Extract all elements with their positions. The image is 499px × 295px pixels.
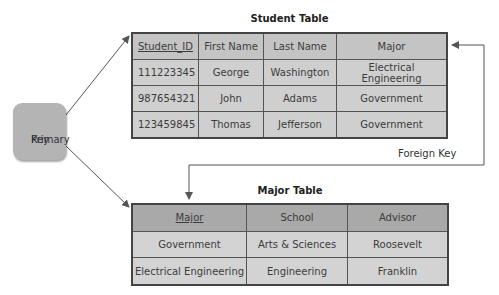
student-table-header: Student_ID First Name Last Name Major: [132, 33, 447, 60]
cell-last-name: Adams: [264, 86, 337, 112]
column-header-major: Major: [132, 204, 247, 231]
cell-student-id: 987654321: [132, 86, 199, 112]
column-header-first-name: First Name: [199, 33, 264, 60]
table-row: Government Arts & Sciences Roosevelt: [132, 231, 448, 258]
cell-student-id: 111223345: [132, 60, 199, 86]
table-row: Electrical Engineering Engineering Frank…: [132, 258, 448, 285]
major-table-header: Major School Advisor: [132, 204, 448, 231]
column-header-school: School: [247, 204, 348, 231]
cell-major: Electrical Engineering: [132, 258, 247, 285]
column-header-advisor: Advisor: [348, 204, 449, 231]
cell-student-id: 123459845: [132, 112, 199, 139]
major-table-title: Major Table: [131, 185, 449, 196]
table-row: 987654321 John Adams Government: [132, 86, 447, 112]
column-header-last-name: Last Name: [264, 33, 337, 60]
column-header-major: Major: [337, 33, 448, 60]
cell-school: Engineering: [247, 258, 348, 285]
pk-to-student-arrow: [66, 36, 129, 115]
cell-first-name: George: [199, 60, 264, 86]
cell-major: Government: [337, 86, 448, 112]
cell-first-name: Thomas: [199, 112, 264, 139]
cell-major: Government: [337, 112, 448, 139]
student-table-title: Student Table: [131, 13, 448, 24]
cell-major: Government: [132, 231, 247, 258]
primary-key-box: PrimaryKey: [13, 103, 66, 160]
cell-advisor: Roosevelt: [348, 231, 449, 258]
cell-major: Electrical Engineering: [337, 60, 448, 86]
cell-last-name: Washington: [264, 60, 337, 86]
table-row: 111223345 George Washington Electrical E…: [132, 60, 447, 86]
table-row: 123459845 Thomas Jefferson Government: [132, 112, 447, 139]
cell-advisor: Franklin: [348, 258, 449, 285]
cell-last-name: Jefferson: [264, 112, 337, 139]
cell-school: Arts & Sciences: [247, 231, 348, 258]
cell-first-name: John: [199, 86, 264, 112]
major-table: Major School Advisor Government Arts & S…: [131, 203, 449, 286]
column-header-student-id: Student_ID: [132, 33, 199, 60]
foreign-key-label: Foreign Key: [398, 148, 456, 159]
pk-to-major-arrow: [66, 146, 129, 207]
student-table: Student_ID First Name Last Name Major 11…: [131, 32, 448, 139]
primary-key-label-line2: Key: [31, 133, 75, 146]
